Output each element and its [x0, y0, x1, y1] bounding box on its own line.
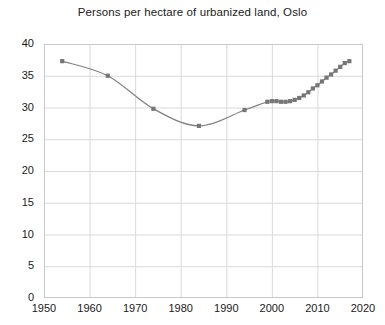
data-point-marker — [343, 61, 347, 65]
x-axis-tick-label: 2000 — [252, 302, 292, 314]
y-axis-tick-label: 15 — [0, 196, 34, 208]
data-point-marker — [324, 76, 328, 80]
data-point-marker — [106, 74, 110, 78]
data-point-marker — [329, 72, 333, 76]
x-axis-tick-label: 1960 — [70, 302, 110, 314]
data-point-marker — [293, 98, 297, 102]
y-axis-tick-label: 35 — [0, 69, 34, 81]
data-point-marker — [283, 100, 287, 104]
y-axis-tick-label: 40 — [0, 37, 34, 49]
x-axis-tick-label: 1950 — [24, 302, 64, 314]
plot-area — [44, 44, 363, 298]
data-point-marker — [270, 99, 274, 103]
x-axis-tick-label: 1990 — [206, 302, 246, 314]
y-axis-tick-label: 20 — [0, 164, 34, 176]
data-point-marker — [315, 83, 319, 87]
data-point-marker — [279, 100, 283, 104]
y-axis-tick-label: 30 — [0, 101, 34, 113]
x-axis-tick-label: 1980 — [161, 302, 201, 314]
data-point-marker — [334, 69, 338, 73]
data-point-marker — [274, 99, 278, 103]
y-axis-tick-label: 5 — [0, 259, 34, 271]
y-axis-tick-label: 10 — [0, 228, 34, 240]
data-series-markers — [60, 59, 351, 128]
x-axis-tick-label: 2010 — [297, 302, 337, 314]
data-point-marker — [347, 59, 351, 63]
x-axis-tick-label: 2020 — [343, 302, 383, 314]
data-point-marker — [60, 59, 64, 63]
data-point-marker — [151, 107, 155, 111]
chart-container: Persons per hectare of urbanized land, O… — [0, 0, 385, 325]
chart-title: Persons per hectare of urbanized land, O… — [0, 6, 385, 18]
data-point-marker — [320, 79, 324, 83]
data-point-marker — [297, 96, 301, 100]
data-point-marker — [265, 100, 269, 104]
y-axis-tick-label: 25 — [0, 132, 34, 144]
data-point-marker — [288, 99, 292, 103]
data-point-marker — [306, 90, 310, 94]
grid-lines — [44, 44, 363, 298]
data-point-marker — [197, 124, 201, 128]
x-axis-tick-label: 1970 — [115, 302, 155, 314]
data-point-marker — [302, 93, 306, 97]
data-point-marker — [311, 86, 315, 90]
data-point-marker — [338, 65, 342, 69]
data-point-marker — [242, 108, 246, 112]
line-chart-svg — [44, 44, 363, 298]
